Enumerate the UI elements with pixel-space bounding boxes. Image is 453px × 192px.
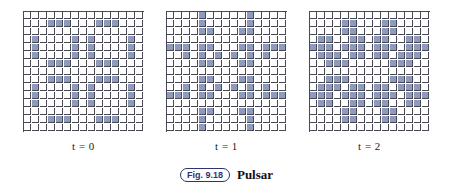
life-cell-dead[interactable] <box>263 116 270 123</box>
life-cell-dead[interactable] <box>167 76 174 83</box>
life-cell-dead[interactable] <box>342 36 349 43</box>
life-cell-dead[interactable] <box>32 108 39 115</box>
life-cell-alive[interactable] <box>128 44 135 51</box>
life-cell-dead[interactable] <box>48 68 55 75</box>
life-cell-alive[interactable] <box>422 44 429 51</box>
life-cell-dead[interactable] <box>191 116 198 123</box>
life-cell-dead[interactable] <box>334 108 341 115</box>
life-cell-alive[interactable] <box>271 44 278 51</box>
life-cell-dead[interactable] <box>24 44 31 51</box>
life-cell-dead[interactable] <box>191 44 198 51</box>
life-cell-dead[interactable] <box>271 60 278 67</box>
life-cell-dead[interactable] <box>207 124 214 131</box>
life-cell-alive[interactable] <box>239 60 246 67</box>
life-cell-dead[interactable] <box>318 12 325 19</box>
life-cell-dead[interactable] <box>366 76 373 83</box>
life-cell-alive[interactable] <box>342 44 349 51</box>
life-cell-dead[interactable] <box>223 60 230 67</box>
life-cell-dead[interactable] <box>231 116 238 123</box>
life-cell-dead[interactable] <box>128 76 135 83</box>
life-cell-dead[interactable] <box>72 20 79 27</box>
life-cell-dead[interactable] <box>422 84 429 91</box>
life-cell-alive[interactable] <box>358 36 365 43</box>
life-cell-dead[interactable] <box>279 52 286 59</box>
life-cell-dead[interactable] <box>239 116 246 123</box>
life-cell-dead[interactable] <box>96 108 103 115</box>
life-cell-dead[interactable] <box>223 116 230 123</box>
life-cell-alive[interactable] <box>406 36 413 43</box>
life-cell-dead[interactable] <box>271 116 278 123</box>
life-cell-alive[interactable] <box>342 20 349 27</box>
life-cell-dead[interactable] <box>175 20 182 27</box>
life-cell-dead[interactable] <box>128 20 135 27</box>
life-cell-dead[interactable] <box>48 36 55 43</box>
life-cell-dead[interactable] <box>271 52 278 59</box>
life-cell-alive[interactable] <box>56 60 63 67</box>
life-cell-dead[interactable] <box>191 36 198 43</box>
life-cell-dead[interactable] <box>104 52 111 59</box>
life-cell-dead[interactable] <box>40 44 47 51</box>
life-cell-dead[interactable] <box>128 124 135 131</box>
life-cell-dead[interactable] <box>56 36 63 43</box>
life-cell-dead[interactable] <box>366 92 373 99</box>
life-cell-dead[interactable] <box>366 84 373 91</box>
life-cell-alive[interactable] <box>183 44 190 51</box>
life-cell-alive[interactable] <box>199 92 206 99</box>
life-cell-dead[interactable] <box>279 116 286 123</box>
life-cell-dead[interactable] <box>56 12 63 19</box>
life-cell-alive[interactable] <box>96 60 103 67</box>
life-cell-dead[interactable] <box>215 116 222 123</box>
life-cell-dead[interactable] <box>80 108 87 115</box>
life-cell-dead[interactable] <box>422 116 429 123</box>
life-cell-dead[interactable] <box>326 108 333 115</box>
life-cell-dead[interactable] <box>72 68 79 75</box>
life-cell-dead[interactable] <box>374 76 381 83</box>
life-cell-alive[interactable] <box>247 60 254 67</box>
life-cell-dead[interactable] <box>104 100 111 107</box>
life-cell-dead[interactable] <box>358 124 365 131</box>
life-cell-dead[interactable] <box>334 36 341 43</box>
life-cell-alive[interactable] <box>374 92 381 99</box>
life-cell-alive[interactable] <box>199 60 206 67</box>
life-cell-dead[interactable] <box>120 116 127 123</box>
life-cell-dead[interactable] <box>318 124 325 131</box>
life-cell-dead[interactable] <box>136 12 143 19</box>
life-cell-dead[interactable] <box>342 84 349 91</box>
life-cell-dead[interactable] <box>112 124 119 131</box>
life-cell-dead[interactable] <box>223 36 230 43</box>
life-cell-dead[interactable] <box>390 100 397 107</box>
life-cell-dead[interactable] <box>358 116 365 123</box>
life-cell-alive[interactable] <box>32 36 39 43</box>
life-cell-dead[interactable] <box>398 108 405 115</box>
life-cell-dead[interactable] <box>255 84 262 91</box>
life-cell-dead[interactable] <box>191 92 198 99</box>
life-cell-dead[interactable] <box>342 124 349 131</box>
life-cell-dead[interactable] <box>80 116 87 123</box>
life-cell-alive[interactable] <box>358 44 365 51</box>
life-cell-dead[interactable] <box>279 12 286 19</box>
life-cell-dead[interactable] <box>183 116 190 123</box>
life-cell-dead[interactable] <box>104 84 111 91</box>
life-cell-dead[interactable] <box>32 116 39 123</box>
life-cell-dead[interactable] <box>207 116 214 123</box>
life-cell-dead[interactable] <box>32 20 39 27</box>
life-cell-dead[interactable] <box>366 68 373 75</box>
life-cell-alive[interactable] <box>350 52 357 59</box>
life-cell-alive[interactable] <box>48 20 55 27</box>
life-cell-dead[interactable] <box>255 36 262 43</box>
life-cell-dead[interactable] <box>88 124 95 131</box>
life-cell-dead[interactable] <box>398 68 405 75</box>
life-cell-dead[interactable] <box>398 20 405 27</box>
life-cell-dead[interactable] <box>358 12 365 19</box>
life-cell-dead[interactable] <box>40 108 47 115</box>
life-cell-dead[interactable] <box>88 20 95 27</box>
life-cell-dead[interactable] <box>215 60 222 67</box>
life-cell-dead[interactable] <box>136 44 143 51</box>
life-cell-dead[interactable] <box>40 84 47 91</box>
life-cell-alive[interactable] <box>247 108 254 115</box>
life-cell-dead[interactable] <box>422 100 429 107</box>
life-cell-dead[interactable] <box>199 100 206 107</box>
life-cell-dead[interactable] <box>215 36 222 43</box>
life-cell-dead[interactable] <box>128 68 135 75</box>
life-cell-dead[interactable] <box>414 60 421 67</box>
